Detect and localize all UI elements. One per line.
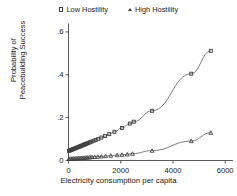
chart-figure: Low Hostility High Hostility Probability…: [0, 0, 237, 196]
series-line-low-hostility: [69, 51, 211, 151]
x-axis-tick-label: 2000: [104, 167, 138, 175]
x-axis-tick-label: 4000: [156, 167, 190, 175]
series-line-high-hostility: [69, 133, 211, 159]
x-axis-tick-label: 0: [52, 167, 86, 175]
x-axis-title: Electricity consumption per capita: [0, 176, 237, 185]
y-axis-tick-label: .2: [48, 114, 64, 122]
y-axis-tick-label: .6: [48, 28, 64, 36]
x-axis-tick-label: 6000: [208, 167, 237, 175]
y-axis-tick-label: 0: [48, 157, 64, 165]
y-axis-tick-label: .4: [48, 71, 64, 79]
